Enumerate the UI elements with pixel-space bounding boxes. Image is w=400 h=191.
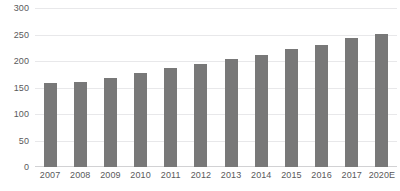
plot-area bbox=[35, 8, 397, 167]
y-axis: 050100150200250300 bbox=[0, 0, 34, 191]
bar-2020E[interactable] bbox=[375, 34, 388, 167]
y-tick-label-200: 200 bbox=[14, 57, 29, 66]
y-tick-label-250: 250 bbox=[14, 30, 29, 39]
x-tick-label-2020E: 2020E bbox=[369, 171, 396, 180]
y-tick-label-0: 0 bbox=[24, 163, 29, 172]
bar-chart: 050100150200250300 200720082009201020112… bbox=[0, 0, 400, 191]
y-tick-label-150: 150 bbox=[14, 83, 29, 92]
bar-2011[interactable] bbox=[164, 68, 177, 167]
y-tick-label-50: 50 bbox=[19, 136, 29, 145]
bar-2012[interactable] bbox=[194, 64, 207, 167]
bars-group bbox=[35, 8, 397, 167]
x-tick-label-2015: 2015 bbox=[281, 171, 301, 180]
bar-2016[interactable] bbox=[315, 45, 328, 167]
x-tick-label-2013: 2013 bbox=[221, 171, 241, 180]
y-tick-label-300: 300 bbox=[14, 4, 29, 13]
x-tick-label-2016: 2016 bbox=[311, 171, 331, 180]
bar-2017[interactable] bbox=[345, 38, 358, 167]
x-tick-label-2009: 2009 bbox=[100, 171, 120, 180]
bar-2007[interactable] bbox=[44, 83, 57, 167]
bar-2010[interactable] bbox=[134, 73, 147, 167]
x-axis: 2007200820092010201120122013201420152016… bbox=[35, 169, 397, 189]
bar-2015[interactable] bbox=[285, 49, 298, 167]
x-tick-label-2007: 2007 bbox=[40, 171, 60, 180]
x-tick-label-2010: 2010 bbox=[130, 171, 150, 180]
y-tick-label-100: 100 bbox=[14, 110, 29, 119]
x-tick-label-2008: 2008 bbox=[70, 171, 90, 180]
bar-2013[interactable] bbox=[225, 59, 238, 167]
bar-2008[interactable] bbox=[74, 82, 87, 167]
x-tick-label-2012: 2012 bbox=[191, 171, 211, 180]
x-tick-label-2017: 2017 bbox=[342, 171, 362, 180]
bar-2014[interactable] bbox=[255, 55, 268, 167]
x-tick-label-2014: 2014 bbox=[251, 171, 271, 180]
x-tick-label-2011: 2011 bbox=[161, 171, 181, 180]
bar-2009[interactable] bbox=[104, 78, 117, 167]
